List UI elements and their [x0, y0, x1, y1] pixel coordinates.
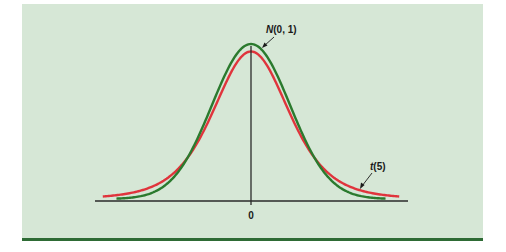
normal-label-params: (0, 1)	[273, 24, 296, 35]
t-arrow-shaft	[362, 173, 372, 186]
density-chart: 0 N(0, 1) t(5)	[0, 0, 506, 252]
normal-label: N(0, 1)	[266, 24, 297, 35]
t-label-params: (5)	[373, 161, 385, 172]
x-tick-zero: 0	[248, 210, 254, 221]
t-label: t(5)	[370, 161, 386, 172]
